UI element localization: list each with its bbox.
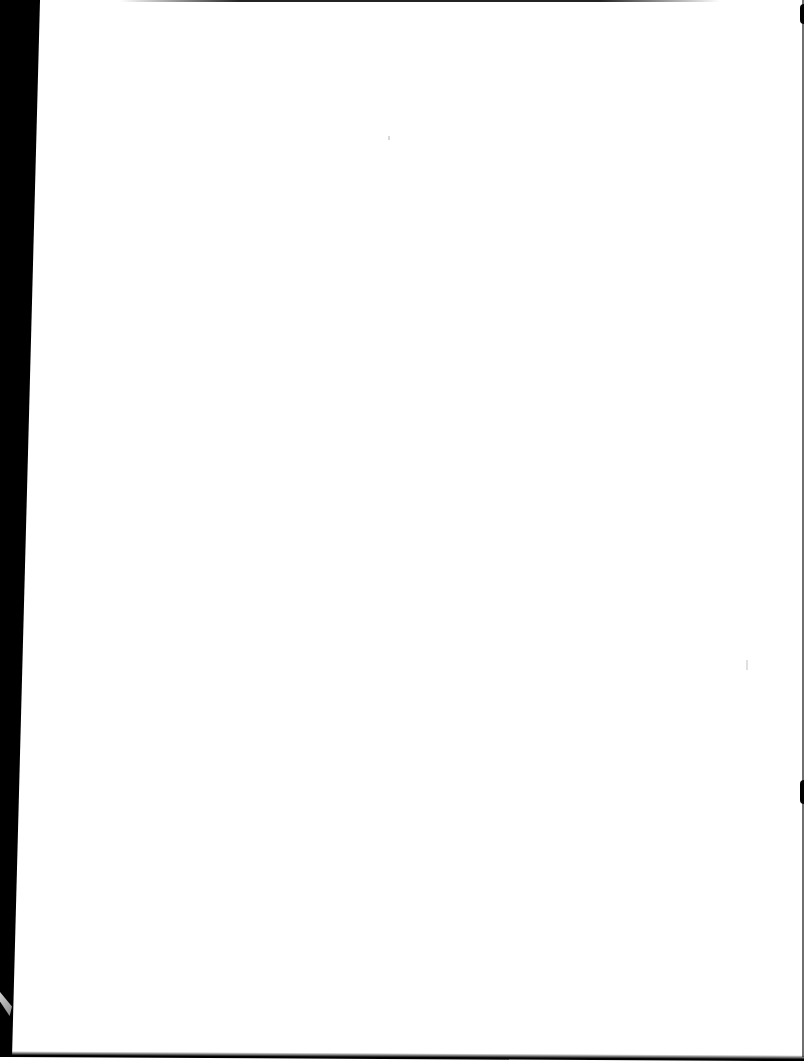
scanner-left-border [0, 0, 40, 1057]
scanner-bottom-edge [8, 1051, 804, 1061]
scanner-top-edge [120, 0, 720, 2]
page-content-area [60, 60, 764, 997]
page-curl-right [800, 780, 804, 804]
page-curl-top-right [800, 4, 804, 24]
